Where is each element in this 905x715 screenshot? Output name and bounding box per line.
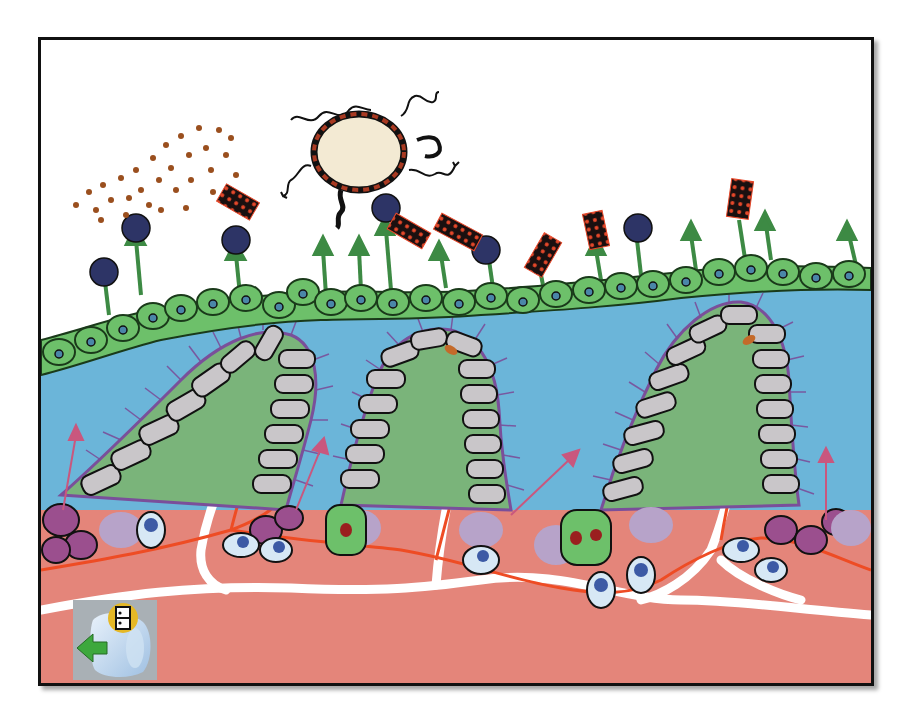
figure-frame	[38, 37, 874, 686]
dark-particles	[90, 194, 652, 286]
back-nav-button[interactable]	[73, 600, 157, 680]
page-badge-icon	[108, 603, 138, 633]
intestinal-villi-illustration	[41, 40, 871, 683]
bacterium	[281, 92, 459, 228]
antigen-dot-cloud	[73, 125, 239, 223]
